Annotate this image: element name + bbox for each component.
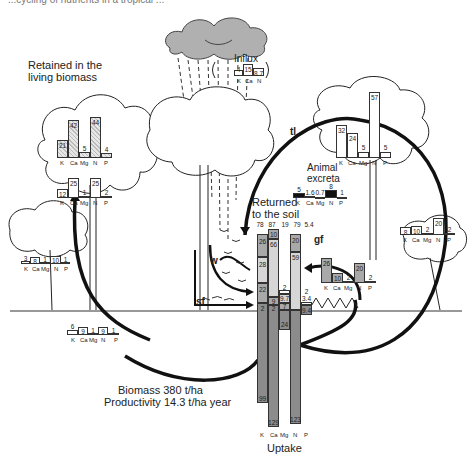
w-label: w — [210, 255, 218, 266]
retained-label-line1: Retained in the — [28, 59, 102, 71]
sf-label: sf — [196, 296, 205, 307]
tl-label: tl — [290, 126, 296, 137]
returned-label-line1: Returned — [252, 196, 297, 208]
gf-label: gf — [314, 234, 323, 245]
gf-arrowhead-icon — [304, 263, 312, 273]
tree-crown-middle — [147, 87, 274, 176]
influx-label: Influx — [234, 53, 258, 64]
uptake-label: Uptake — [267, 442, 302, 454]
retained-label-line2: living biomass — [28, 71, 97, 83]
animal-excreta-label-line1: Animal — [307, 162, 338, 173]
returned-label-line2: to the soil — [252, 208, 299, 220]
grass-icon — [310, 298, 358, 308]
cut-off-header: ...cycling of nutrients in a tropical ..… — [8, 0, 164, 5]
productivity-label: Productivity 14.3 t/ha year — [104, 396, 231, 408]
biomass-label: Biomass 380 t/ha — [118, 384, 203, 396]
